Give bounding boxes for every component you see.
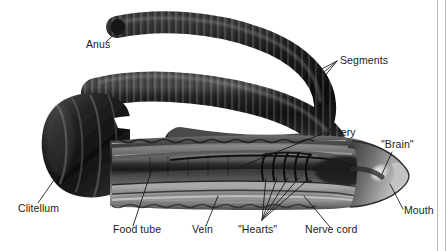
earthworm-anatomy-figure: Anus Segments Artery "Brain" Mouth Nerve… (0, 0, 447, 251)
label-clitellum: Clitellum (18, 202, 59, 214)
label-brain: "Brain" (381, 138, 414, 150)
label-hearts: "Hearts" (238, 223, 277, 235)
clitellum-sheen (46, 104, 74, 176)
label-artery: Artery (327, 126, 356, 138)
label-mouth: Mouth (404, 204, 434, 216)
body-interior-group (110, 138, 394, 208)
label-nerve-cord: Nerve cord (305, 223, 357, 235)
label-vein: Vein (192, 223, 213, 235)
dissected-anterior-body (110, 135, 409, 210)
earthworm-diagram-canvas: Anus Segments Artery "Brain" Mouth Nerve… (0, 0, 447, 251)
label-food-tube: Food tube (113, 223, 161, 235)
label-anus: Anus (86, 38, 110, 50)
label-segments: Segments (340, 54, 388, 66)
anus-tip (111, 19, 125, 35)
